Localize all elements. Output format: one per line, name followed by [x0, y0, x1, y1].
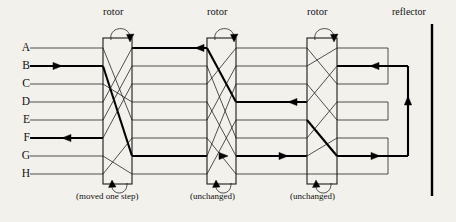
- row-label-g: G: [16, 149, 30, 161]
- row-label-c: C: [16, 77, 30, 89]
- rotor-3-wire-F-D: [307, 102, 337, 138]
- row-label-e: E: [16, 113, 30, 125]
- rotor-2-wire-G-C: [207, 84, 236, 156]
- rotor-2-label: rotor: [207, 6, 227, 17]
- arrow-r3refl-b-left: [370, 62, 379, 69]
- rotor-3-wire-E-G: [307, 120, 337, 156]
- rotor-2-wire-C-A: [207, 48, 236, 84]
- row-label-h: H: [16, 167, 30, 179]
- rotor-3-label: rotor: [307, 6, 327, 17]
- row-label-f: F: [16, 131, 30, 143]
- rotor-1-wire-G-H: [103, 156, 132, 174]
- rotor-2-wire-F-H: [207, 138, 236, 174]
- rotor-1-wire-F-C: [103, 84, 132, 138]
- rotor-1-wire-H-F: [103, 138, 132, 174]
- rotor-3-wire-B-A: [307, 48, 337, 66]
- rotor-2-box: [207, 38, 236, 184]
- output-arrow-f: [62, 134, 71, 141]
- input-arrow-b: [53, 62, 62, 69]
- rotor-3-wire-A-C: [307, 48, 337, 84]
- rotor-1-label: rotor: [103, 6, 123, 17]
- row-label-b: B: [16, 59, 30, 71]
- diagram-canvas: [0, 0, 456, 222]
- reflector-arrow-up: [404, 96, 411, 105]
- row-label-d: D: [16, 95, 30, 107]
- rotor-3-caption: (unchanged): [290, 191, 335, 201]
- rotor-3-wire-D-B: [307, 66, 337, 102]
- rotor-1-wire-D-A: [103, 48, 132, 102]
- rotor-3-wire-G-F: [307, 138, 337, 156]
- rotor-2-wire-D-G: [207, 102, 236, 156]
- row-label-a: A: [16, 41, 30, 53]
- arrow-r2r3-d-left: [288, 98, 297, 105]
- arrow-r1r2-a-left: [195, 44, 204, 51]
- arrow-r2r3-g-right: [279, 152, 288, 159]
- arrow-r3refl-g-right: [371, 152, 380, 159]
- rotor-3-box: [307, 38, 337, 184]
- rotor-2-caption: (unchanged): [190, 191, 235, 201]
- rotor-1-caption: (moved one step): [76, 191, 138, 201]
- rotor-3-wire-C-E: [307, 84, 337, 120]
- enigma-rotor-diagram: A B C D E F G H rotor rotor rotor (moved…: [0, 0, 456, 222]
- reflector-label: reflector: [392, 6, 426, 17]
- rotor-2-wire-H-E: [207, 120, 236, 174]
